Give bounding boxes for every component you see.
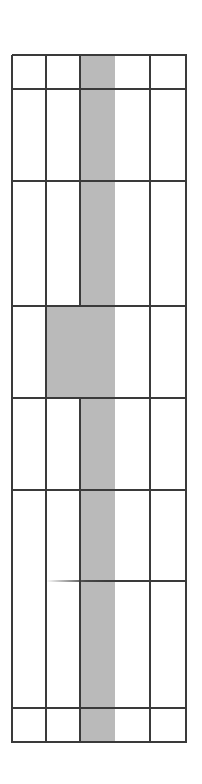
grid-horizontal-line: [12, 489, 187, 491]
grid-vertical-line: [45, 55, 47, 743]
shaded-grid-diagram: [0, 0, 202, 784]
shaded-region: [46, 306, 115, 398]
grid-horizontal-line: [12, 707, 187, 709]
grid-vertical-line: [79, 398, 81, 743]
grid-horizontal-line: [12, 305, 187, 307]
grid-horizontal-line: [46, 580, 187, 582]
grid-horizontal-line: [12, 180, 187, 182]
shaded-region: [80, 398, 115, 742]
grid-vertical-line: [11, 55, 13, 743]
grid-vertical-line: [149, 55, 151, 743]
grid-vertical-line: [185, 55, 187, 743]
grid-horizontal-line: [12, 741, 187, 743]
grid-horizontal-line: [12, 88, 187, 90]
grid-horizontal-line: [12, 397, 187, 399]
grid-horizontal-line: [12, 54, 187, 56]
